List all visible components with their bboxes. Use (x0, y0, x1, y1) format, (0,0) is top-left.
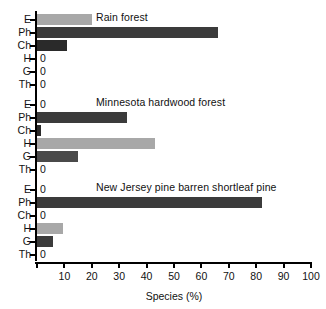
bar-row: Th 0 (0, 79, 326, 91)
bar-ph (37, 197, 262, 208)
x-tick (36, 262, 38, 268)
category-label: H (0, 222, 31, 234)
bar-row: H (0, 223, 326, 235)
y-tick (30, 130, 36, 132)
figure-container: Rain forest E Ph Ch H (0, 0, 326, 309)
x-tick (173, 262, 175, 268)
bar-g (37, 236, 53, 247)
x-tick (200, 262, 202, 268)
bar-e (37, 14, 92, 25)
x-tick-label: 50 (159, 270, 189, 282)
bar-row: Ph (0, 197, 326, 209)
y-tick (30, 215, 36, 217)
y-tick (30, 71, 36, 73)
bar-ch (37, 40, 67, 51)
zero-label: 0 (40, 163, 46, 175)
y-tick (30, 228, 36, 230)
category-label: E (0, 13, 31, 25)
bar-row: G 0 (0, 66, 326, 78)
x-tick-label: 30 (104, 270, 134, 282)
category-label: E (0, 98, 31, 110)
bar-h (37, 223, 63, 234)
category-label: Th (0, 78, 31, 90)
zero-label: 0 (40, 209, 46, 221)
category-label: E (0, 183, 31, 195)
bar-row: Th 0 (0, 249, 326, 261)
category-label: Ph (0, 196, 31, 208)
x-tick-label: 100 (296, 270, 326, 282)
chart-panel-minnesota-hardwood-forest: Minnesota hardwood forest E 0 Ph Ch (0, 97, 326, 177)
bar-row: E 0 (0, 184, 326, 196)
x-tick (283, 262, 285, 268)
bar-row: Ph (0, 27, 326, 39)
category-label: Ch (0, 39, 31, 51)
zero-label: 0 (40, 98, 46, 110)
x-tick-label: 60 (186, 270, 216, 282)
category-label: H (0, 52, 31, 64)
y-tick (30, 169, 36, 171)
bar-row: Ch (0, 40, 326, 52)
x-tick (146, 262, 148, 268)
bar-row: Ph (0, 112, 326, 124)
y-tick (30, 32, 36, 34)
bar-row: Ch 0 (0, 210, 326, 222)
bar-row: G (0, 151, 326, 163)
category-label: Th (0, 248, 31, 260)
y-tick (30, 104, 36, 106)
bar-row: G (0, 236, 326, 248)
category-label: G (0, 150, 31, 162)
zero-label: 0 (40, 52, 46, 64)
x-axis-title: Species (%) (0, 290, 326, 302)
x-tick (118, 262, 120, 268)
y-tick (30, 189, 36, 191)
category-label: Ch (0, 209, 31, 221)
y-tick (30, 84, 36, 86)
zero-label: 0 (40, 183, 46, 195)
bar-row: E 0 (0, 99, 326, 111)
x-tick-label: 20 (77, 270, 107, 282)
zero-label: 0 (40, 78, 46, 90)
y-tick (30, 241, 36, 243)
y-tick (30, 117, 36, 119)
x-tick (63, 262, 65, 268)
y-tick (30, 45, 36, 47)
x-tick-label: 40 (132, 270, 162, 282)
zero-label: 0 (40, 248, 46, 260)
category-label: Ch (0, 124, 31, 136)
x-axis: 102030405060708090100 Species (%) (0, 262, 326, 309)
y-tick (30, 254, 36, 256)
x-tick-label: 10 (49, 270, 79, 282)
bar-row: Th 0 (0, 164, 326, 176)
bar-ph (37, 27, 218, 38)
bar-row: H (0, 138, 326, 150)
zero-label: 0 (40, 65, 46, 77)
chart-panel-rain-forest: Rain forest E Ph Ch H (0, 12, 326, 92)
bar-row: Ch (0, 125, 326, 137)
category-label: Th (0, 163, 31, 175)
y-tick (30, 143, 36, 145)
x-tick-label: 90 (269, 270, 299, 282)
bar-g (37, 151, 78, 162)
plot-area: Rain forest E Ph Ch H (0, 8, 326, 264)
y-tick (30, 58, 36, 60)
y-tick (30, 202, 36, 204)
x-tick (310, 262, 312, 268)
bar-row: H 0 (0, 53, 326, 65)
x-tick-label: 80 (241, 270, 271, 282)
clipped-caption-text (6, 0, 306, 4)
category-label: G (0, 235, 31, 247)
category-label: Ph (0, 111, 31, 123)
chart-panel-new-jersey-pine-barren: New Jersey pine barren shortleaf pine E … (0, 182, 326, 262)
bar-h (37, 138, 155, 149)
x-tick-label: 70 (214, 270, 244, 282)
bar-ph (37, 112, 127, 123)
category-label: G (0, 65, 31, 77)
bar-row: E (0, 14, 326, 26)
x-tick (91, 262, 93, 268)
y-tick (30, 19, 36, 21)
category-label: Ph (0, 26, 31, 38)
bar-ch (37, 125, 41, 136)
x-tick (255, 262, 257, 268)
x-tick (228, 262, 230, 268)
y-tick (30, 156, 36, 158)
